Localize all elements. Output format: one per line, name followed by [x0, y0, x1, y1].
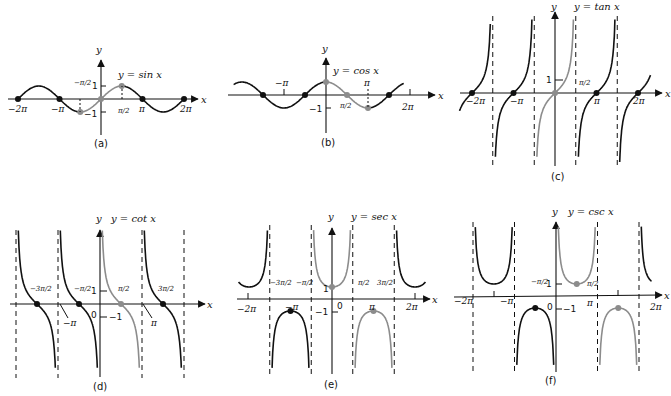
function-title: y = csc x — [567, 206, 614, 217]
x-axis-label: x — [664, 290, 670, 301]
x-axis-label: x — [201, 94, 207, 105]
tick-y-1: 1 — [546, 279, 552, 289]
function-title: y = cot x — [110, 213, 156, 224]
tick-neg-3half-pi: −3π/2 — [270, 279, 292, 287]
y-axis-label: y — [321, 43, 328, 54]
tick-y-neg1: −1 — [309, 104, 322, 114]
function-title: y = sec x — [350, 211, 397, 222]
tick-neg-pi: −π — [510, 96, 525, 106]
y-axis-label: y — [550, 1, 557, 12]
tick-origin: 0 — [91, 310, 97, 320]
tick-neg-3half-pi: −3π/2 — [30, 285, 52, 293]
x-axis-label: x — [207, 299, 213, 310]
panel-caption: (f) — [545, 375, 556, 386]
x-axis-label: x — [438, 90, 444, 101]
tick-neg-2pi: −2π — [454, 296, 474, 306]
x-axis-label: x — [665, 88, 671, 99]
tick-neg-half-pi: −π/2 — [74, 79, 92, 87]
tick-neg-pi: −π — [285, 302, 300, 312]
tick-half-pi: π/2 — [586, 280, 599, 288]
panel-sin: y x y = sin x −2π −π −π/2 π/2 π 2π 1 −1 … — [8, 44, 207, 149]
tick-origin: 0 — [337, 301, 343, 311]
y-axis-label: y — [95, 44, 102, 55]
tick-2pi: 2π — [179, 104, 193, 114]
tick-y-1: 1 — [92, 81, 98, 91]
panel-caption: (c) — [551, 171, 564, 182]
y-axis-label: y — [327, 211, 334, 222]
panel-cos: y x y = cos x −π π/2 π 2π −1 (b) — [228, 43, 444, 148]
panel-caption: (a) — [94, 138, 108, 149]
panel-caption: (b) — [321, 137, 335, 148]
tick-neg-half-pi: −π/2 — [74, 285, 92, 293]
tick-neg-pi: −π — [51, 104, 66, 114]
tick-neg-half-pi: −π/2 — [296, 279, 314, 287]
tick-y-neg1: −1 — [109, 312, 122, 322]
tick-2pi: 2π — [649, 302, 663, 312]
x-axis-label: x — [432, 294, 438, 305]
tick-3half-pi: 3π/2 — [377, 279, 393, 287]
tick-2pi: 2π — [632, 96, 646, 106]
tick-half-pi: π/2 — [117, 107, 130, 115]
tick-pi: π — [368, 302, 376, 312]
tick-3half-pi: 3π/2 — [158, 285, 174, 293]
y-axis-label: y — [551, 206, 558, 217]
tick-2pi: 2π — [401, 102, 415, 112]
function-title: y = sin x — [117, 69, 162, 80]
panel-caption: (d) — [93, 381, 107, 392]
tick-pi: π — [138, 104, 146, 114]
y-axis-label: y — [95, 213, 102, 224]
tick-y-1: 1 — [323, 284, 329, 294]
tick-y-neg1: −1 — [84, 109, 97, 119]
function-title: y = cos x — [332, 65, 379, 76]
tick-half-pi: π/2 — [578, 79, 591, 87]
panel-cot: y x y = cot x −3π/2 −π −π/2 0 π/2 π 3π/2… — [10, 213, 213, 392]
tick-pi: π — [593, 96, 601, 106]
tick-neg-pi: −π — [275, 78, 290, 88]
trig-function-figure: y x y = sin x −2π −π −π/2 π/2 π 2π 1 −1 … — [0, 0, 671, 396]
tick-neg-2pi: −2π — [466, 96, 486, 106]
tick-neg-2pi: −2π — [8, 104, 28, 114]
tick-y-neg1: −1 — [563, 304, 576, 314]
tick-origin: 0 — [547, 302, 553, 312]
tick-half-pi: π/2 — [357, 279, 370, 287]
tick-y-neg1: −1 — [315, 307, 328, 317]
tick-pi: π — [363, 78, 371, 88]
tick-neg-pi: −π — [500, 296, 515, 306]
tick-y-1: 1 — [91, 286, 97, 296]
tick-pi: π — [150, 318, 158, 328]
function-title: y = tan x — [573, 1, 620, 12]
x-axis — [454, 295, 662, 297]
tick-neg-2pi: −2π — [237, 304, 257, 314]
tick-half-pi: π/2 — [117, 285, 130, 293]
tick-y-1: 1 — [546, 75, 552, 85]
tick-neg-pi: −π — [63, 318, 78, 328]
tick-pi: π — [586, 298, 594, 308]
panel-caption: (e) — [324, 379, 338, 390]
panel-csc: y x y = csc x −2π −π −π/2 0 π/2 π 2π 1 −… — [454, 206, 670, 386]
tick-2pi: 2π — [405, 302, 419, 312]
panel-tan: y x y = tan x −2π −π π/2 π 2π 1 (c) — [460, 1, 671, 182]
tick-half-pi: π/2 — [339, 102, 352, 110]
panel-sec: y x y = sec x −2π −3π/2 −π −π/2 0 π/2 π … — [237, 211, 438, 390]
